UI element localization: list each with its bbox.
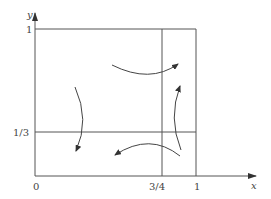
y-tick-one-third: 1/3 <box>13 127 29 138</box>
flow-arrow-right-up <box>174 86 181 150</box>
flow-arrow-top-right <box>112 64 178 74</box>
origin-label: 0 <box>33 181 39 192</box>
x-axis-label: x <box>251 180 257 191</box>
x-tick-three-quarters: 3/4 <box>149 181 165 192</box>
y-tick-one: 1 <box>26 24 32 35</box>
x-tick-one: 1 <box>194 181 200 192</box>
flow-arrow-left-down <box>75 87 83 151</box>
phase-portrait-diagram: y 1 1/3 0 3/4 1 x <box>0 0 271 199</box>
y-axis-label: y <box>26 9 33 20</box>
flow-arrow-bottom-left <box>115 144 180 156</box>
